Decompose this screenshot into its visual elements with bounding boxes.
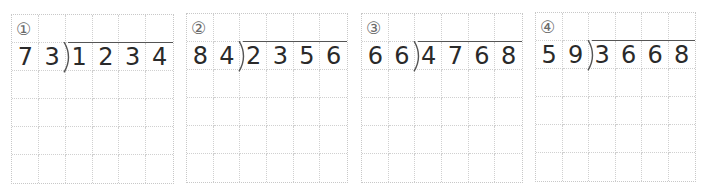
grid-cell[interactable] (214, 98, 241, 126)
grid-cell[interactable] (39, 15, 66, 43)
grid-cell[interactable] (442, 154, 469, 182)
grid-cell[interactable] (536, 69, 563, 97)
grid-cell[interactable] (389, 70, 416, 98)
grid-cell[interactable] (669, 69, 696, 97)
grid-cell[interactable] (240, 70, 267, 98)
grid-cell[interactable] (146, 155, 173, 183)
grid-cell[interactable] (267, 98, 294, 126)
grid-cell[interactable] (362, 126, 389, 154)
grid-cell[interactable] (589, 153, 616, 181)
grid-cell[interactable] (240, 14, 267, 42)
grid-cell[interactable] (589, 125, 616, 153)
grid-cell[interactable] (415, 70, 442, 98)
answer-grid[interactable] (362, 14, 522, 182)
answer-grid[interactable] (12, 15, 173, 183)
grid-cell[interactable] (536, 97, 563, 125)
grid-cell[interactable] (442, 98, 469, 126)
grid-cell[interactable] (415, 154, 442, 182)
grid-cell[interactable] (267, 70, 294, 98)
grid-cell[interactable] (642, 69, 669, 97)
grid-cell[interactable] (240, 98, 267, 126)
grid-cell[interactable] (616, 153, 643, 181)
grid-cell[interactable] (267, 126, 294, 154)
grid-cell[interactable] (669, 125, 696, 153)
grid-cell[interactable] (669, 97, 696, 125)
grid-cell[interactable] (320, 98, 347, 126)
grid-cell[interactable] (12, 71, 39, 99)
grid-cell[interactable] (66, 15, 93, 43)
grid-cell[interactable] (93, 127, 120, 155)
grid-cell[interactable] (616, 97, 643, 125)
grid-cell[interactable] (294, 126, 321, 154)
grid-cell[interactable] (362, 70, 389, 98)
grid-cell[interactable] (320, 14, 347, 42)
grid-cell[interactable] (469, 154, 496, 182)
grid-cell[interactable] (214, 70, 241, 98)
grid-cell[interactable] (66, 71, 93, 99)
grid-cell[interactable] (589, 69, 616, 97)
grid-cell[interactable] (495, 98, 522, 126)
grid-cell[interactable] (146, 15, 173, 43)
grid-cell[interactable] (442, 70, 469, 98)
grid-cell[interactable] (146, 71, 173, 99)
grid-cell[interactable] (642, 97, 669, 125)
grid-cell[interactable] (642, 13, 669, 41)
grid-cell[interactable] (320, 154, 347, 182)
grid-cell[interactable] (187, 70, 214, 98)
grid-cell[interactable] (389, 154, 416, 182)
grid-cell[interactable] (294, 14, 321, 42)
grid-cell[interactable] (66, 99, 93, 127)
grid-cell[interactable] (389, 98, 416, 126)
grid-cell[interactable] (563, 13, 590, 41)
grid-cell[interactable] (93, 155, 120, 183)
grid-cell[interactable] (563, 97, 590, 125)
grid-cell[interactable] (240, 126, 267, 154)
grid-cell[interactable] (39, 127, 66, 155)
grid-cell[interactable] (563, 153, 590, 181)
grid-cell[interactable] (669, 13, 696, 41)
grid-cell[interactable] (469, 98, 496, 126)
grid-cell[interactable] (442, 14, 469, 42)
grid-cell[interactable] (119, 71, 146, 99)
grid-cell[interactable] (563, 69, 590, 97)
grid-cell[interactable] (119, 99, 146, 127)
grid-cell[interactable] (536, 125, 563, 153)
grid-cell[interactable] (214, 154, 241, 182)
grid-cell[interactable] (389, 14, 416, 42)
grid-cell[interactable] (39, 155, 66, 183)
grid-cell[interactable] (362, 98, 389, 126)
grid-cell[interactable] (495, 70, 522, 98)
grid-cell[interactable] (39, 71, 66, 99)
grid-cell[interactable] (93, 99, 120, 127)
grid-cell[interactable] (93, 71, 120, 99)
grid-cell[interactable] (495, 14, 522, 42)
grid-cell[interactable] (616, 69, 643, 97)
grid-cell[interactable] (66, 127, 93, 155)
grid-cell[interactable] (320, 126, 347, 154)
grid-cell[interactable] (589, 97, 616, 125)
grid-cell[interactable] (415, 98, 442, 126)
grid-cell[interactable] (415, 126, 442, 154)
grid-cell[interactable] (12, 127, 39, 155)
grid-cell[interactable] (495, 126, 522, 154)
grid-cell[interactable] (12, 99, 39, 127)
grid-cell[interactable] (642, 153, 669, 181)
grid-cell[interactable] (39, 99, 66, 127)
grid-cell[interactable] (616, 13, 643, 41)
grid-cell[interactable] (294, 98, 321, 126)
grid-cell[interactable] (187, 98, 214, 126)
grid-cell[interactable] (119, 127, 146, 155)
grid-cell[interactable] (294, 70, 321, 98)
grid-cell[interactable] (12, 155, 39, 183)
answer-grid[interactable] (536, 13, 695, 181)
answer-grid[interactable] (187, 14, 347, 182)
grid-cell[interactable] (442, 126, 469, 154)
grid-cell[interactable] (93, 15, 120, 43)
grid-cell[interactable] (469, 70, 496, 98)
grid-cell[interactable] (669, 153, 696, 181)
grid-cell[interactable] (214, 14, 241, 42)
grid-cell[interactable] (119, 15, 146, 43)
grid-cell[interactable] (146, 127, 173, 155)
grid-cell[interactable] (536, 153, 563, 181)
grid-cell[interactable] (267, 14, 294, 42)
